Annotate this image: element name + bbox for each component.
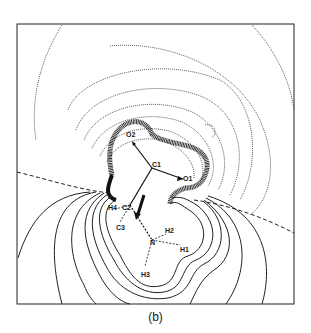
- atom-label-c1: C1: [152, 161, 161, 168]
- atom-label-h4: H4: [108, 204, 117, 211]
- atom-label-h2: H2: [165, 227, 174, 234]
- bond-c1-o1: [152, 168, 180, 178]
- atom-label-o2: O2: [126, 131, 135, 138]
- bond-n-h1: [152, 240, 180, 245]
- contour-map-figure: O2 C1 O1 H4 C2 C3 N H2 H1 H3: [0, 0, 311, 333]
- atom-label-c2: C2: [122, 204, 131, 211]
- bond-c1-c2: [130, 168, 152, 205]
- negative-contours: [34, 25, 294, 215]
- atom-label-h1: H1: [180, 246, 189, 253]
- atom-label-n: N: [150, 239, 155, 246]
- atom-label-o1: O1: [183, 175, 192, 182]
- dipole-arrow: [138, 195, 144, 214]
- atom-label-c3: C3: [116, 224, 125, 231]
- atom-label-h3: H3: [141, 271, 150, 278]
- bond-c1-o2: [133, 143, 152, 168]
- dipole-arrowhead: [134, 212, 141, 220]
- figure-caption: (b): [0, 310, 311, 324]
- positive-contours: [18, 192, 267, 304]
- bond-c2-n: [130, 205, 152, 240]
